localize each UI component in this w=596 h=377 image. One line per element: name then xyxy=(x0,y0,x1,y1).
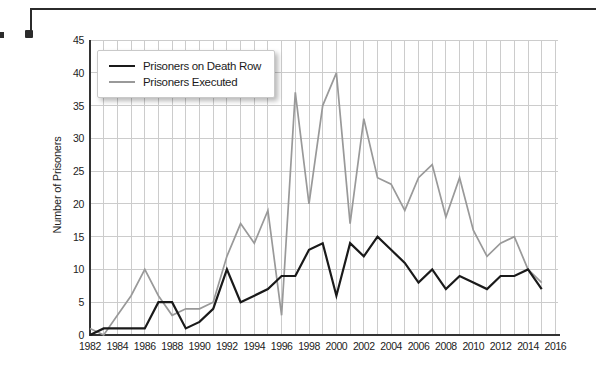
x-tick-label: 2014 xyxy=(517,340,539,352)
x-tick-label: 1998 xyxy=(298,340,320,352)
death-row-line-swatch xyxy=(109,65,135,67)
x-tick-label: 2010 xyxy=(462,340,484,352)
legend-label-executed: Prisoners Executed xyxy=(143,76,237,88)
x-tick-label: 2008 xyxy=(435,340,457,352)
y-tick-label: 40 xyxy=(73,67,84,79)
x-tick-label: 1986 xyxy=(134,340,156,352)
legend-item-executed: Prisoners Executed xyxy=(109,74,261,90)
line-chart: 0510152025303540451982198419861988199019… xyxy=(0,0,596,377)
x-tick-label: 2000 xyxy=(326,340,348,352)
x-tick-label: 1994 xyxy=(243,340,265,352)
x-tick-label: 2016 xyxy=(545,340,567,352)
x-tick-label: 1982 xyxy=(79,340,101,352)
y-tick-label: 30 xyxy=(73,132,84,144)
y-tick-label: 15 xyxy=(73,231,84,243)
x-tick-label: 2002 xyxy=(353,340,375,352)
figure-page: 0510152025303540451982198419861988199019… xyxy=(0,0,596,377)
series-line-prisoners-on-death-row xyxy=(90,237,542,335)
x-tick-label: 1992 xyxy=(216,340,238,352)
executed-line-swatch xyxy=(109,81,135,83)
legend-label-death-row: Prisoners on Death Row xyxy=(143,60,261,72)
x-axis-tick-labels: 1982198419861988199019921994199619982000… xyxy=(79,340,567,352)
y-tick-label: 45 xyxy=(73,34,84,46)
y-tick-label: 10 xyxy=(73,263,84,275)
y-axis-title: Number of Prisoners xyxy=(51,85,63,285)
y-axis-tick-labels: 051015202530354045 xyxy=(73,34,84,341)
x-tick-label: 1988 xyxy=(161,340,183,352)
chart-legend: Prisoners on Death Row Prisoners Execute… xyxy=(97,50,275,98)
x-tick-label: 1996 xyxy=(271,340,293,352)
x-tick-label: 2004 xyxy=(380,340,402,352)
y-tick-label: 20 xyxy=(73,198,84,210)
x-tick-label: 1990 xyxy=(189,340,211,352)
x-tick-label: 1984 xyxy=(106,340,128,352)
y-tick-label: 25 xyxy=(73,165,84,177)
x-tick-label: 2012 xyxy=(490,340,512,352)
y-tick-label: 35 xyxy=(73,100,84,112)
x-tick-label: 2006 xyxy=(408,340,430,352)
y-tick-label: 5 xyxy=(79,296,85,308)
legend-item-death-row: Prisoners on Death Row xyxy=(109,58,261,74)
